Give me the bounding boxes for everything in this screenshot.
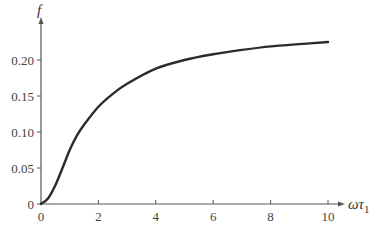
axes <box>39 17 346 207</box>
x-axis-arrow-icon <box>338 202 345 207</box>
x-tick-label: 2 <box>95 209 102 224</box>
x-axis-label-main: ωτ <box>348 196 365 212</box>
y-axis-arrow-icon <box>39 17 44 24</box>
y-tick-label: 0.15 <box>11 89 34 104</box>
x-tick-label: 10 <box>322 209 335 224</box>
x-tick-label: 8 <box>267 209 274 224</box>
chart: 0246810 00.050.100.150.20 f ωτ1 <box>0 0 375 233</box>
y-tick-label: 0.10 <box>11 125 34 140</box>
y-axis-label: f <box>37 2 43 18</box>
y-tick-label: 0 <box>28 197 35 212</box>
y-ticks: 00.050.100.150.20 <box>11 53 41 212</box>
y-tick-label: 0.20 <box>11 53 34 68</box>
x-axis-label-sub: 1 <box>364 203 370 215</box>
x-tick-label: 4 <box>153 209 160 224</box>
x-tick-label: 6 <box>210 209 217 224</box>
data-line <box>41 42 328 204</box>
x-tick-label: 0 <box>38 209 45 224</box>
y-tick-label: 0.05 <box>11 161 34 176</box>
x-axis-label: ωτ1 <box>348 196 369 215</box>
